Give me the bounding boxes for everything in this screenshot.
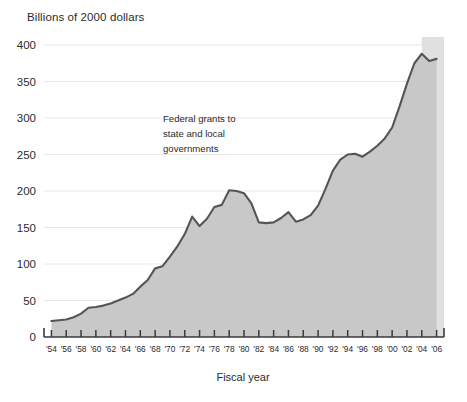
x-tick-labels: '54'56'58'60'62'64'66'68'70'72'74'76'78'… — [46, 344, 442, 354]
y-tick-label: 300 — [17, 112, 36, 124]
x-tick-label: '64 — [120, 344, 131, 354]
x-tick-label: '88 — [298, 344, 309, 354]
x-tick-label: '94 — [342, 344, 353, 354]
y-tick-label: 400 — [17, 39, 36, 51]
x-tick-label: '84 — [268, 344, 279, 354]
x-tick-label: '80 — [239, 344, 250, 354]
y-tick-labels: 050100150200250300350400 — [17, 39, 36, 343]
series-annotation: Federal grants tostate and localgovernme… — [163, 113, 236, 154]
annotation-line: governments — [163, 143, 219, 154]
x-tick-label: '06 — [431, 344, 442, 354]
y-tick-label: 150 — [17, 222, 36, 234]
x-tick-label: '86 — [283, 344, 294, 354]
x-tick-label: '72 — [179, 344, 190, 354]
x-tick-label: '76 — [209, 344, 220, 354]
x-axis-title: Fiscal year — [216, 371, 270, 383]
x-tick-label: '96 — [357, 344, 368, 354]
x-tick-label: '60 — [90, 344, 101, 354]
x-tick-label: '74 — [194, 344, 205, 354]
x-tick-label: '04 — [416, 344, 427, 354]
y-tick-label: 0 — [30, 331, 36, 343]
y-tick-label: 100 — [17, 258, 36, 270]
annotation-line: Federal grants to — [163, 113, 236, 124]
x-tick-label: '68 — [150, 344, 161, 354]
x-tick-label: '00 — [387, 344, 398, 354]
x-tick-label: '98 — [372, 344, 383, 354]
x-tick-label: '66 — [135, 344, 146, 354]
area-chart: 050100150200250300350400 '54'56'58'60'62… — [0, 0, 467, 402]
x-tick-label: '54 — [46, 344, 57, 354]
area-series — [51, 54, 436, 337]
x-tick-label: '92 — [327, 344, 338, 354]
x-tick-label: '78 — [224, 344, 235, 354]
x-tick-label: '02 — [402, 344, 413, 354]
x-tick-label: '58 — [76, 344, 87, 354]
annotation-line: state and local — [163, 128, 225, 139]
y-tick-label: 200 — [17, 185, 36, 197]
y-tick-label: 350 — [17, 76, 36, 88]
x-tick-label: '70 — [164, 344, 175, 354]
y-tick-label: 50 — [23, 295, 36, 307]
x-tick-label: '90 — [313, 344, 324, 354]
x-tick-label: '82 — [253, 344, 264, 354]
chart-figure: Billions of 2000 dollars 050100150200250… — [0, 0, 467, 402]
x-tick-label: '62 — [105, 344, 116, 354]
x-tick-label: '56 — [61, 344, 72, 354]
y-tick-label: 250 — [17, 149, 36, 161]
